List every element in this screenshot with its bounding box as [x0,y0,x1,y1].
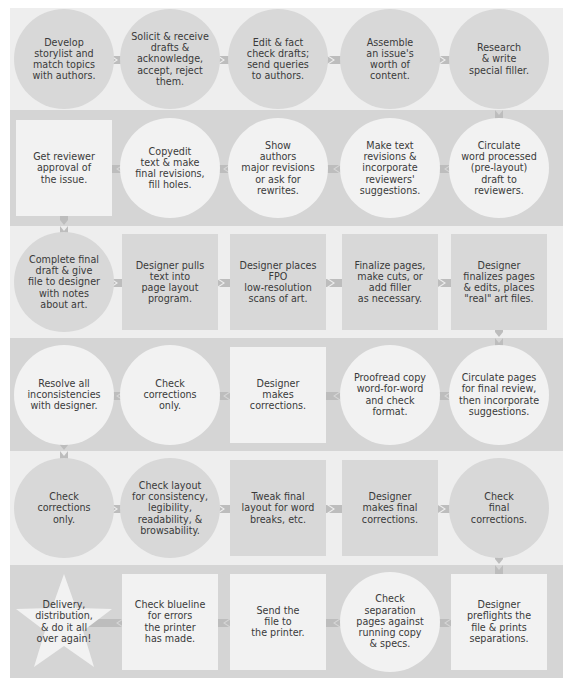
step-node-square: Designer makes corrections. [230,347,326,443]
step-node-circle: Make text revisions & incorporate review… [340,118,440,218]
step-node-square: Send the file to the printer. [230,574,326,670]
step-label: Check final corrections. [471,491,527,525]
step-node-circle: Check final corrections. [449,458,549,558]
step-label: Solicit & receive drafts & acknowledge, … [131,31,209,87]
step-node-circle: Resolve all inconsistencies with designe… [14,345,114,445]
step-label: Designer pulls text into page layout pro… [136,260,205,305]
step-label: Edit & fact check drafts; send queries t… [247,37,309,82]
step-node-circle: Copyedit text & make final revisions, fi… [120,118,220,218]
step-label: Designer makes final corrections. [362,491,418,525]
step-label: Check separation pages against running c… [356,593,423,649]
step-label: Show authors major revisions or ask for … [241,140,314,196]
step-node-circle: Check corrections only. [14,458,114,558]
step-node-square: Check blueline for errors the printer ha… [122,574,218,670]
step-node-circle: Check separation pages against running c… [340,572,440,672]
step-label: Check blueline for errors the printer ha… [135,599,206,644]
step-label: Develop storylist and match topics with … [32,37,95,82]
step-node-star: Delivery, distribution, & do it all over… [14,572,114,672]
step-label: Research & write special filler. [469,42,529,76]
step-node-circle: Edit & fact check drafts; send queries t… [228,9,328,109]
step-node-circle: Complete final draft & give file to desi… [14,232,114,332]
step-label: Check corrections only. [143,378,196,412]
step-node-circle: Solicit & receive drafts & acknowledge, … [120,9,220,109]
step-node-circle: Check corrections only. [120,345,220,445]
step-label: Make text revisions & incorporate review… [360,140,421,196]
step-label: Circulate pages for final review, then i… [459,372,539,417]
step-label: Designer makes corrections. [250,378,306,412]
step-node-square: Get reviewer approval of the issue. [16,120,112,216]
step-label: Designer preflights the file & prints se… [467,599,531,644]
step-label: Assemble an issue's worth of content. [366,37,413,82]
step-label: Finalize pages, make cuts, or add filler… [355,260,426,305]
step-node-circle: Assemble an issue's worth of content. [340,9,440,109]
step-node-circle: Circulate pages for final review, then i… [449,345,549,445]
step-label: Resolve all inconsistencies with designe… [27,378,100,412]
step-node-circle: Check layout for consistency, legibility… [120,458,220,558]
step-node-square: Designer makes final corrections. [342,460,438,556]
step-label: Check layout for consistency, legibility… [132,480,208,536]
step-node-square: Designer finalizes pages & edits, places… [451,234,547,330]
step-label: Check corrections only. [37,491,90,525]
step-label: Send the file to the printer. [251,605,304,639]
step-node-square: Designer pulls text into page layout pro… [122,234,218,330]
step-node-square: Designer preflights the file & prints se… [451,574,547,670]
step-node-circle: Circulate word processed (pre-layout) dr… [449,118,549,218]
step-label: Copyedit text & make final revisions, fi… [135,146,204,191]
step-label: Designer finalizes pages & edits, places… [463,260,534,305]
step-label: Get reviewer approval of the issue. [33,151,95,185]
step-node-circle: Develop storylist and match topics with … [14,9,114,109]
step-label: Delivery, distribution, & do it all over… [35,599,93,644]
workflow-diagram: Develop storylist and match topics with … [10,8,563,678]
step-node-square: Tweak final layout for word breaks, etc. [230,460,326,556]
step-label: Proofread copy word-for-word and check f… [354,372,426,417]
step-node-square: Designer places FPO low-resolution scans… [230,234,326,330]
step-label: Designer places FPO low-resolution scans… [240,260,317,305]
step-label: Circulate word processed (pre-layout) dr… [461,140,537,196]
step-node-circle: Proofread copy word-for-word and check f… [340,345,440,445]
step-node-circle: Show authors major revisions or ask for … [228,118,328,218]
step-node-circle: Research & write special filler. [449,9,549,109]
step-label: Complete final draft & give file to desi… [28,254,100,310]
step-label: Tweak final layout for word breaks, etc. [242,491,315,525]
step-node-square: Finalize pages, make cuts, or add filler… [342,234,438,330]
